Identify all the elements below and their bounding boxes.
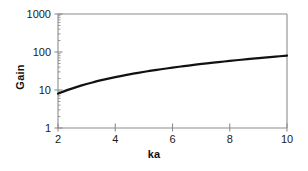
- x-tick-label: 10: [281, 134, 293, 145]
- y-tick-label: 1000: [0, 9, 51, 20]
- axes-frame: [58, 14, 287, 128]
- x-tick-label: 4: [112, 134, 118, 145]
- x-tick-label: 6: [169, 134, 175, 145]
- chart-figure: 1101001000 246810 Gain ka: [0, 0, 308, 171]
- x-tick-label: 2: [55, 134, 61, 145]
- y-tick-label: 1: [0, 123, 51, 134]
- data-series-line: [58, 56, 287, 94]
- y-axis-title: Gain: [14, 47, 26, 107]
- x-tick-label: 8: [227, 134, 233, 145]
- x-axis-title: ka: [0, 148, 308, 160]
